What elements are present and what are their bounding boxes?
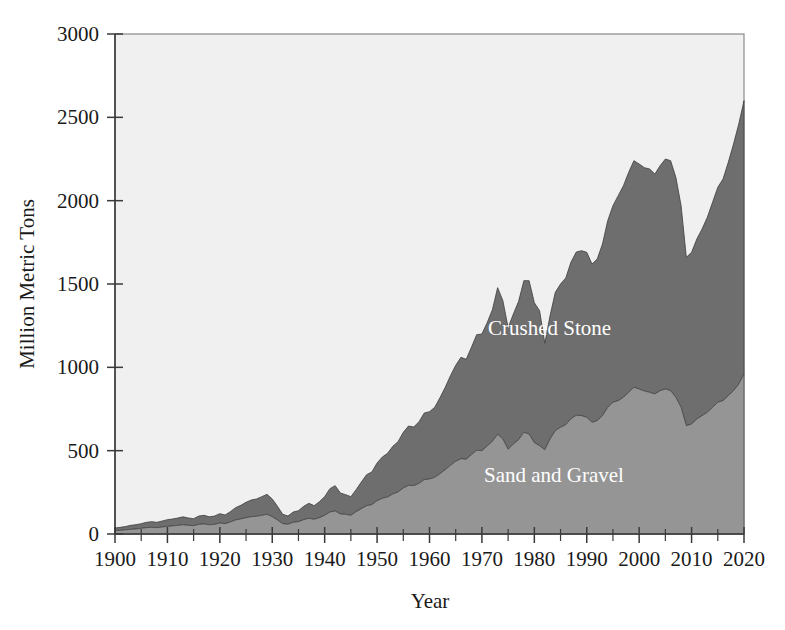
x-tick-label: 1980 bbox=[513, 547, 555, 571]
y-tick-label: 1500 bbox=[57, 272, 99, 296]
y-axis-title: Million Metric Tons bbox=[15, 199, 39, 369]
x-tick-label: 1960 bbox=[409, 547, 451, 571]
x-tick-label: 1970 bbox=[461, 547, 503, 571]
crushed-stone-label: Crushed Stone bbox=[488, 316, 611, 340]
y-tick-label: 500 bbox=[68, 439, 100, 463]
x-tick-label: 1920 bbox=[199, 547, 241, 571]
area-chart: 0500100015002000250030001900191019201930… bbox=[0, 0, 785, 630]
x-tick-label: 1930 bbox=[251, 547, 293, 571]
y-tick-label: 0 bbox=[89, 522, 100, 546]
x-tick-label: 1990 bbox=[566, 547, 608, 571]
y-tick-label: 2500 bbox=[57, 105, 99, 129]
x-tick-label: 1950 bbox=[356, 547, 398, 571]
x-tick-label: 1910 bbox=[146, 547, 188, 571]
x-tick-label: 2000 bbox=[618, 547, 660, 571]
sand-and-gravel-label: Sand and Gravel bbox=[484, 463, 624, 487]
y-tick-label: 2000 bbox=[57, 189, 99, 213]
chart-figure: 0500100015002000250030001900191019201930… bbox=[0, 0, 785, 630]
x-axis-title: Year bbox=[411, 589, 450, 613]
x-tick-label: 1940 bbox=[304, 547, 346, 571]
y-tick-label: 1000 bbox=[57, 355, 99, 379]
y-tick-label: 3000 bbox=[57, 22, 99, 46]
x-tick-label: 2010 bbox=[671, 547, 713, 571]
x-tick-label: 1900 bbox=[94, 547, 136, 571]
x-tick-label: 2020 bbox=[723, 547, 765, 571]
